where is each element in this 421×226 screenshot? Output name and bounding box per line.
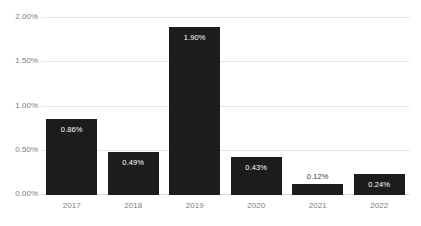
bar[interactable]: 0.43% (231, 157, 282, 195)
bar-column-2019: 1.90% (164, 17, 226, 195)
y-tick-label: 0.00% (2, 189, 38, 199)
bar[interactable]: 0.24% (354, 174, 405, 195)
bar-value-label: 0.43% (245, 163, 267, 172)
x-tick-label: 2021 (287, 197, 349, 215)
bar[interactable]: 0.86% (46, 119, 97, 195)
x-tick-label: 2019 (164, 197, 226, 215)
x-tick-label: 2022 (349, 197, 411, 215)
x-tick-label: 2017 (41, 197, 103, 215)
bar-value-label: 0.12% (307, 172, 329, 181)
bar-chart: 2.00% 1.50% 1.00% 0.50% 0.00% 0.86% 0.49… (0, 0, 421, 226)
x-axis: 2017 2018 2019 2020 2021 2022 (41, 197, 410, 215)
x-tick-label: 2018 (103, 197, 165, 215)
bar[interactable]: 0.12% (292, 184, 343, 195)
bar-series: 0.86% 0.49% 1.90% 0.43% 0.12% 0.24% (41, 17, 410, 195)
bar-value-label: 0.49% (122, 158, 144, 167)
y-axis: 2.00% 1.50% 1.00% 0.50% 0.00% (0, 17, 38, 195)
bar-value-label: 1.90% (184, 33, 206, 42)
y-tick-label: 1.50% (2, 56, 38, 66)
y-tick-label: 0.50% (2, 145, 38, 155)
bar[interactable]: 0.49% (108, 152, 159, 195)
bar-column-2017: 0.86% (41, 17, 103, 195)
bar-column-2022: 0.24% (349, 17, 411, 195)
bar-column-2021: 0.12% (287, 17, 349, 195)
bar[interactable]: 1.90% (169, 27, 220, 195)
x-tick-label: 2020 (226, 197, 288, 215)
bar-column-2018: 0.49% (103, 17, 165, 195)
bar-value-label: 0.86% (61, 125, 83, 134)
y-tick-label: 1.00% (2, 101, 38, 111)
y-tick-label: 2.00% (2, 12, 38, 22)
bar-column-2020: 0.43% (226, 17, 288, 195)
chart-title (0, 0, 421, 5)
bar-value-label: 0.24% (368, 180, 390, 189)
